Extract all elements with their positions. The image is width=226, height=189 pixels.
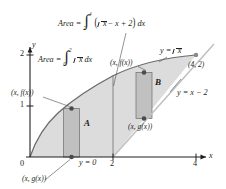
left-rect-top-point-label: (x, f(x)): [11, 89, 33, 97]
area-b-prefix: Area =: [58, 19, 81, 28]
left-rect-top-point: [69, 106, 74, 111]
area-a-prefix: Area =: [38, 55, 61, 64]
intersection-point: [194, 53, 199, 58]
area-a-formula: Area = 2 ∫ 0 xdx: [38, 50, 92, 66]
area-a-lower-limit: 0: [63, 62, 66, 68]
area-b-upper-limit: 4: [89, 12, 92, 18]
y-axis-label: y: [32, 41, 36, 49]
area-a-upper-limit: 2: [69, 48, 72, 54]
x-tick-label-4: 4: [193, 160, 197, 168]
region-a-label: A: [84, 119, 90, 128]
line-curve-label: y = x − 2: [177, 89, 208, 97]
intersection-point-label: (4, 2): [188, 61, 204, 69]
left-rect-bottom-point-label: (x, g(x)): [22, 175, 46, 183]
area-b-lower-limit: 2: [83, 26, 86, 32]
sqrt-curve-label-prefix: y =: [160, 46, 171, 55]
y-tick-label-1: 1: [20, 101, 24, 109]
x-tick-label-0: 0: [20, 160, 24, 168]
x-axis-line-label: y = 0: [79, 159, 96, 167]
area-b-differential: dx: [137, 19, 145, 28]
left-rect-bottom-point: [69, 155, 74, 160]
sqrt-curve-label-radicand: x: [173, 47, 181, 55]
area-b-formula: Area = 4 ∫ 2 (x− x + 2)dx: [58, 14, 145, 30]
right-rect-bottom-point: [142, 116, 147, 121]
right-representative-rectangle: [136, 73, 152, 119]
x-tick-label-2: 2: [110, 160, 114, 168]
area-b-integrand-rest: − x + 2: [108, 19, 133, 28]
x-axis-arrow: [201, 155, 207, 160]
close-paren: ): [133, 17, 136, 28]
right-rect-top-point-label: (x, f(x)): [110, 59, 132, 67]
x-axis-label: x: [209, 152, 213, 160]
right-rect-bottom-point-label: (x, g(x)): [128, 123, 152, 131]
radical-x: x: [98, 20, 106, 28]
region-b-label: B: [155, 78, 161, 87]
leader-left-bottom-point: [45, 160, 70, 181]
sqrt-curve-label: y =x: [160, 47, 181, 55]
leader-left-top-point: [43, 97, 70, 107]
area-a-differential: dx: [85, 55, 93, 64]
radical-x-a: x: [74, 56, 82, 64]
left-representative-rectangle: [64, 109, 80, 158]
y-tick-label-2: 2: [20, 50, 24, 58]
right-rect-top-point: [142, 70, 147, 75]
